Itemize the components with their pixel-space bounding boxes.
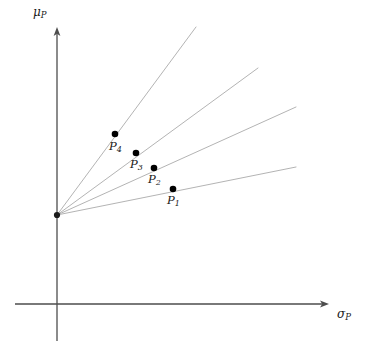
data-point-p2[interactable] bbox=[151, 165, 158, 172]
x-axis-label-symbol: σ bbox=[337, 307, 345, 321]
point-label-p2-symbol: P bbox=[148, 172, 156, 186]
data-point-p1[interactable] bbox=[170, 186, 177, 193]
y-axis bbox=[54, 27, 61, 341]
point-label-p3-subscript: 3 bbox=[138, 163, 143, 172]
point-label-p4-symbol: P bbox=[109, 139, 117, 153]
point-label-p3-symbol: P bbox=[130, 157, 138, 171]
data-point-p4[interactable] bbox=[112, 131, 119, 138]
figure-canvas bbox=[0, 0, 371, 361]
x-axis bbox=[15, 301, 329, 308]
y-axis-label: μP bbox=[33, 6, 47, 19]
y-axis-label-symbol: μ bbox=[33, 5, 41, 19]
point-label-p4-subscript: 4 bbox=[117, 145, 122, 154]
data-point-group bbox=[112, 131, 177, 193]
point-label-p1-subscript: 1 bbox=[175, 199, 180, 208]
data-point-p3[interactable] bbox=[133, 150, 140, 157]
point-label-p4: P4 bbox=[109, 141, 122, 154]
point-label-p3: P3 bbox=[130, 159, 143, 172]
ray-group bbox=[57, 27, 296, 215]
capital-allocation-line-figure: μP σP P4 P3 P2 P1 bbox=[0, 0, 371, 361]
point-label-p1: P1 bbox=[167, 195, 180, 208]
origin-marker bbox=[54, 212, 60, 218]
point-label-p2: P2 bbox=[148, 174, 161, 187]
point-label-p1-symbol: P bbox=[167, 193, 175, 207]
ray-through-p3 bbox=[57, 68, 258, 215]
point-label-p2-subscript: 2 bbox=[156, 178, 161, 187]
y-axis-label-subscript: P bbox=[41, 10, 47, 20]
x-axis-label: σP bbox=[337, 308, 351, 321]
x-axis-label-subscript: P bbox=[345, 312, 351, 322]
